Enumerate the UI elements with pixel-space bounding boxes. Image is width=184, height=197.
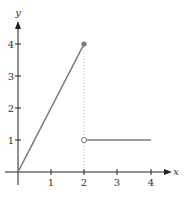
y-tick-label-2: 2: [8, 103, 14, 114]
x-tick-label-3: 3: [114, 177, 120, 188]
x-axis-label: x: [173, 166, 179, 177]
closed-endpoint: [81, 41, 86, 46]
segment-rising: [18, 44, 84, 172]
y-tick-label-3: 3: [8, 71, 14, 82]
y-tick-label-1: 1: [8, 135, 14, 146]
x-tick-label-4: 4: [148, 177, 154, 188]
function-graph: 1 2 3 4 1 2 3 4 x y: [0, 0, 184, 197]
y-axis-arrow-icon: [15, 21, 21, 29]
x-tick-label-2: 2: [81, 177, 87, 188]
y-tick-label-4: 4: [8, 39, 14, 50]
x-axis-arrow-icon: [164, 169, 172, 175]
open-endpoint: [82, 138, 87, 143]
x-tick-label-1: 1: [48, 177, 54, 188]
y-axis-label: y: [14, 7, 21, 18]
